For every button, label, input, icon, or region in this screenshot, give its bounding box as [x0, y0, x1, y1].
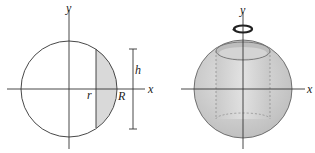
- left-figure: y x r R h: [7, 1, 154, 149]
- r-label: r: [87, 88, 92, 102]
- x-axis-label: x: [306, 82, 313, 96]
- shaded-region: [96, 49, 117, 128]
- y-axis-label: y: [65, 1, 72, 15]
- y-axis-label: y: [239, 3, 246, 17]
- x-axis-label: x: [147, 82, 154, 96]
- h-label: h: [135, 63, 141, 77]
- rotation-arrow-icon: [232, 26, 252, 33]
- right-figure: y x: [181, 3, 313, 149]
- R-label: R: [117, 89, 126, 103]
- diagram-canvas: y x r R h y x: [0, 0, 315, 153]
